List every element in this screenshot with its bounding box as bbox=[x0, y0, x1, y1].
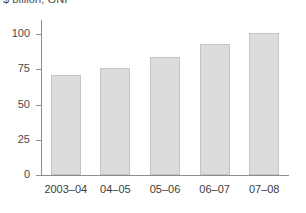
y-axis-tick-label: 100 bbox=[12, 27, 30, 40]
bar bbox=[200, 44, 230, 175]
bar bbox=[100, 68, 130, 175]
y-axis-tick: 0 bbox=[36, 175, 41, 176]
y-axis-line bbox=[41, 20, 42, 176]
bar bbox=[51, 75, 81, 175]
chart-unit-caption: $ billion, GNI bbox=[3, 0, 67, 5]
bar bbox=[249, 33, 279, 175]
x-axis-label: 06–07 bbox=[190, 183, 240, 196]
x-axis-label: 05–06 bbox=[140, 183, 190, 196]
y-axis-tick-label: 0 bbox=[24, 168, 30, 181]
y-axis-tick: 25 bbox=[36, 140, 41, 141]
x-axis-label: 07–08 bbox=[239, 183, 289, 196]
bar-chart-figure: $ billion, GNI 0255075100 2003–0404–0505… bbox=[0, 0, 306, 213]
y-axis-tick: 75 bbox=[36, 69, 41, 70]
x-axis-label: 04–05 bbox=[91, 183, 141, 196]
y-axis-tick-label: 75 bbox=[18, 62, 30, 75]
plot-area: 0255075100 2003–0404–0505–0606–0707–08 bbox=[41, 20, 289, 176]
x-axis-line bbox=[41, 175, 289, 176]
y-axis-tick-label: 50 bbox=[18, 98, 30, 111]
y-axis-tick-label: 25 bbox=[18, 133, 30, 146]
bar bbox=[150, 57, 180, 175]
y-axis-tick: 100 bbox=[36, 34, 41, 35]
x-axis-label: 2003–04 bbox=[41, 183, 91, 196]
y-axis-tick: 50 bbox=[36, 105, 41, 106]
